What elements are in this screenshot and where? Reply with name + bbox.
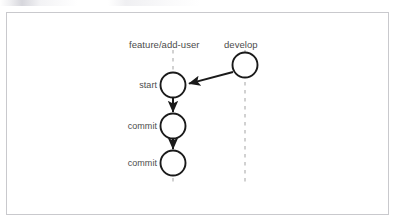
node-feature-commit-1[interactable] [161, 114, 186, 139]
branch-label-develop: develop [224, 40, 258, 50]
git-branch-diagram [0, 0, 395, 224]
branch-off-arrow [189, 72, 233, 84]
nodes [161, 53, 258, 176]
node-label-feature-commit-1: commit [112, 122, 157, 131]
node-label-feature-commit-2: commit [112, 159, 157, 168]
node-feature-start[interactable] [161, 73, 186, 98]
node-label-feature-start: start [117, 81, 157, 90]
node-develop-head[interactable] [233, 53, 258, 78]
node-feature-commit-2[interactable] [161, 151, 186, 176]
branch-label-feature: feature/add-user [129, 40, 200, 50]
